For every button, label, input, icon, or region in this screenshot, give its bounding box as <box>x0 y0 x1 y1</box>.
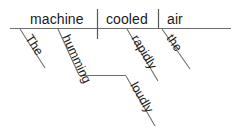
word-subject: machine <box>30 11 84 27</box>
word-object: air <box>167 11 183 27</box>
word-participle-adverb: loudly <box>127 80 156 116</box>
sentence-diagram: machine cooled air The humming loudly ra… <box>0 0 241 129</box>
diagram-canvas: machine cooled air The humming loudly ra… <box>0 0 241 129</box>
word-verb-adverb: rapidly <box>128 32 160 72</box>
word-verb: cooled <box>106 11 148 27</box>
word-subject-adjective: humming <box>59 32 94 85</box>
word-subject-article: The <box>22 32 46 58</box>
